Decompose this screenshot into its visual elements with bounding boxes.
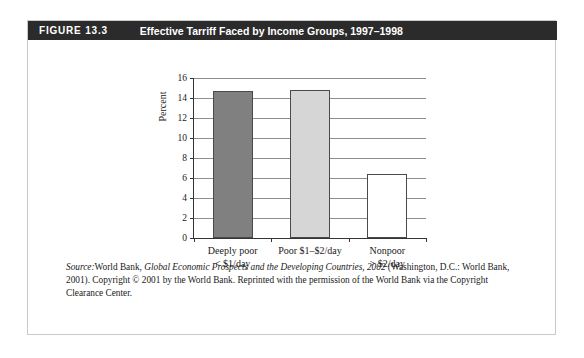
x-axis-category-label-2: Poor $1–$2/day <box>271 244 348 257</box>
source-note: Source:World Bank, Global Economic Prosp… <box>66 261 521 301</box>
category-label-line1: Poor $1–$2/day <box>278 245 342 256</box>
y-axis-title: Percent <box>157 106 168 122</box>
y-axis-tick-label: 12 <box>178 113 188 123</box>
y-axis-tick <box>190 158 194 159</box>
source-book-title: Global Economic Prospects and the Develo… <box>144 262 385 272</box>
plot-area: 0246810121416Deeply poor< $1/dayPoor $1–… <box>193 78 426 239</box>
bar-chart: Percent 0246810121416Deeply poor< $1/day… <box>28 40 557 254</box>
y-axis-tick-label: 0 <box>182 233 187 243</box>
bar-1 <box>213 91 253 238</box>
gridline <box>194 78 426 79</box>
x-axis-tick <box>426 238 427 242</box>
y-axis-tick <box>190 98 194 99</box>
figure-title: Effective Tarriff Faced by Income Groups… <box>140 25 403 37</box>
y-axis-tick-label: 8 <box>182 153 187 163</box>
y-axis-tick <box>190 118 194 119</box>
source-label: Source: <box>66 262 95 272</box>
y-axis-tick-label: 16 <box>178 73 188 83</box>
y-axis-tick-label: 6 <box>182 173 187 183</box>
y-axis-tick-label: 10 <box>178 133 188 143</box>
y-axis-tick <box>190 78 194 79</box>
x-axis-tick <box>271 238 272 242</box>
figure-number-label: FIGURE 13.3 <box>28 25 108 36</box>
category-label-line1: Deeply poor <box>208 245 258 256</box>
x-axis-tick <box>349 238 350 242</box>
figure-container: FIGURE 13.3 Effective Tarriff Faced by I… <box>27 20 556 335</box>
x-axis-tick <box>194 238 195 242</box>
y-axis-tick-label: 14 <box>178 93 188 103</box>
y-axis-tick-label: 2 <box>182 213 187 223</box>
y-axis-tick <box>190 198 194 199</box>
y-axis-tick-label: 4 <box>182 193 187 203</box>
y-axis-tick <box>190 138 194 139</box>
category-label-line1: Nonpoor <box>370 245 406 256</box>
y-axis-tick <box>190 218 194 219</box>
figure-header-bar: FIGURE 13.3 Effective Tarriff Faced by I… <box>28 21 557 40</box>
bar-2 <box>290 90 330 238</box>
source-publisher: World Bank, <box>95 262 145 272</box>
y-axis-tick <box>190 178 194 179</box>
bar-3 <box>367 174 407 238</box>
